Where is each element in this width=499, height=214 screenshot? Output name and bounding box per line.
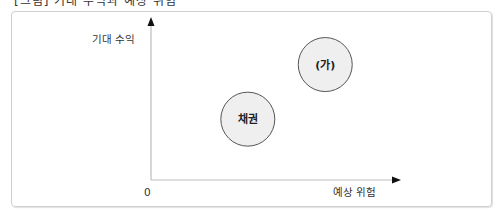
x-axis-label: 예상 위험 (333, 186, 376, 198)
y-axis-arrow-icon (148, 17, 155, 26)
item-label: 채권 (238, 112, 258, 126)
item-ga: (가) (298, 38, 352, 92)
item-label: (가) (315, 58, 335, 72)
x-axis-arrow-icon (392, 177, 401, 184)
y-axis-label: 기대 수익 (92, 33, 135, 45)
risk-return-diagram: 기대 수익 예상 위험 0 채권(가) (0, 0, 499, 214)
origin-label: 0 (144, 186, 151, 198)
item-bond: 채권 (221, 92, 275, 146)
